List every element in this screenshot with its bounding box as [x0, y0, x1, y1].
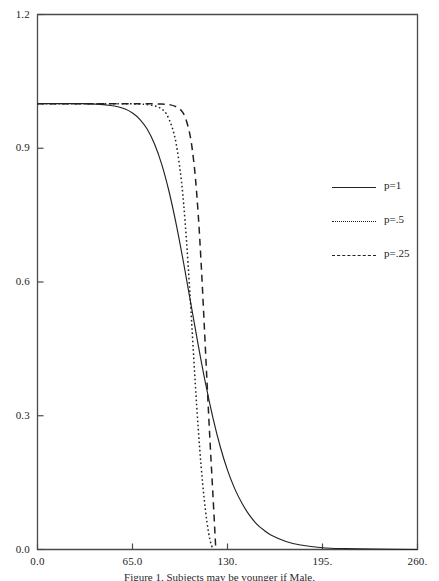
y-tick-label: 0.9 — [0, 141, 30, 153]
series-line-p25 — [38, 104, 216, 550]
series-line-p1 — [38, 104, 418, 550]
chart-legend: p=1 p=.5 p=.25 — [332, 179, 432, 281]
y-axis-ticks — [38, 15, 44, 550]
x-tick-label: 130. — [208, 555, 248, 567]
x-tick-label: 260. — [398, 555, 438, 567]
legend-item-2: p=.25 — [332, 247, 432, 281]
data-series-group — [38, 104, 418, 550]
legend-line-sample-dashed — [332, 255, 376, 258]
legend-label: p=.5 — [384, 213, 404, 225]
legend-line-sample-solid — [332, 187, 376, 190]
legend-label: p=1 — [384, 179, 401, 191]
plot-canvas — [0, 0, 439, 581]
y-tick-label: 1.2 — [0, 8, 30, 20]
y-tick-label: 0.0 — [0, 543, 30, 555]
legend-label: p=.25 — [384, 247, 409, 259]
figure-caption: Figure 1. Subjects may be younger if Mal… — [0, 571, 439, 581]
legend-item-0: p=1 — [332, 179, 432, 213]
series-line-p5 — [38, 104, 213, 550]
legend-item-1: p=.5 — [332, 213, 432, 247]
x-tick-label: 65.0 — [113, 555, 153, 567]
y-tick-label: 0.3 — [0, 409, 30, 421]
x-tick-label: 0.0 — [18, 555, 58, 567]
legend-line-sample-dotted — [332, 221, 376, 224]
y-tick-label: 0.6 — [0, 275, 30, 287]
chart-figure: 0.00.30.60.91.2 0.065.0130.195.260. p=1 … — [0, 0, 439, 581]
x-tick-label: 195. — [303, 555, 343, 567]
